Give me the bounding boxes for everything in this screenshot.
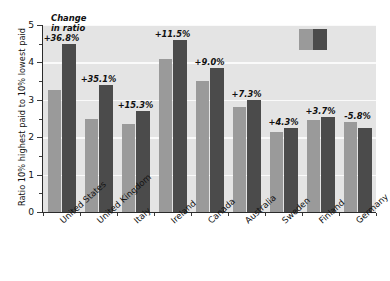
plot-area (43, 25, 376, 212)
legend-swatch-earlier (299, 29, 313, 50)
y-tick-mark-minor (39, 81, 42, 82)
change-annotation: +7.3% (219, 89, 275, 99)
bar (48, 90, 62, 212)
y-tick-mark (37, 175, 42, 176)
y-tick-label: 0 (12, 206, 34, 217)
x-tick-mark (43, 213, 44, 216)
bar (62, 44, 76, 212)
change-annotation: +35.1% (71, 74, 127, 84)
x-tick-mark (339, 213, 340, 216)
change-annotation: +36.8% (34, 33, 90, 43)
y-tick-mark-minor (39, 156, 42, 157)
legend-swatch-later (313, 29, 327, 50)
bar (233, 107, 247, 212)
change-annotation: +11.5% (145, 29, 201, 39)
y-tick-label: 5 (12, 19, 34, 30)
chart-legend (299, 29, 327, 50)
x-tick-mark (80, 213, 81, 216)
bar (196, 81, 210, 212)
bar (284, 128, 298, 212)
x-tick-mark (265, 213, 266, 216)
change-annotation: +15.3% (108, 100, 164, 110)
y-tick-mark (37, 25, 42, 26)
bar (321, 117, 335, 212)
y-tick-label: 2 (12, 131, 34, 142)
bar (159, 59, 173, 212)
y-tick-mark (37, 137, 42, 138)
x-tick-mark (376, 213, 377, 216)
bar (358, 128, 372, 212)
chart-figure: Ratio 10% highest paid to 10% lowest pai… (0, 0, 390, 281)
x-tick-mark (228, 213, 229, 216)
bar (136, 111, 150, 212)
x-tick-mark (154, 213, 155, 216)
y-tick-mark (37, 62, 42, 63)
y-axis-label: Ratio 10% highest paid to 10% lowest pai… (17, 12, 27, 222)
gridline (43, 25, 376, 26)
x-tick-mark (117, 213, 118, 216)
y-tick-mark (37, 100, 42, 101)
x-tick-mark (191, 213, 192, 216)
change-annotation: +4.3% (256, 117, 312, 127)
chart-caption: Change in ratio (51, 13, 86, 33)
bar (344, 122, 358, 212)
x-tick-mark (302, 213, 303, 216)
change-annotation: -5.8% (330, 111, 386, 121)
caption-line-2: in ratio (51, 23, 86, 33)
change-annotation: +9.0% (182, 57, 238, 67)
y-tick-label: 3 (12, 94, 34, 105)
y-tick-mark-minor (39, 119, 42, 120)
y-tick-label: 1 (12, 169, 34, 180)
y-tick-mark-minor (39, 44, 42, 45)
caption-line-1: Change (51, 13, 86, 23)
y-tick-label: 4 (12, 56, 34, 67)
y-tick-mark-minor (39, 193, 42, 194)
